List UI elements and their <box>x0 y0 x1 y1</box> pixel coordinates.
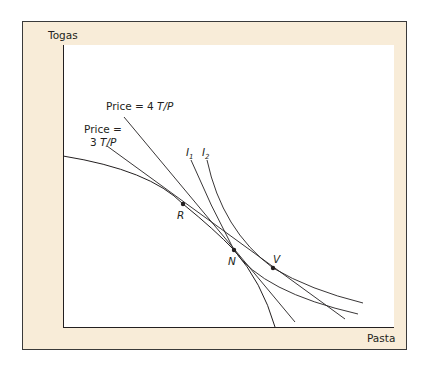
point-v-marker <box>271 266 275 270</box>
x-axis-label: Pasta <box>367 333 395 344</box>
indifference-curve-i1 <box>191 160 358 314</box>
indifference-curve-i2 <box>207 160 363 303</box>
price-3-prefix: 3 <box>90 136 100 148</box>
i1-subscript: 1 <box>189 153 193 161</box>
diagram-canvas <box>0 0 427 370</box>
price-3-unit: T/P <box>100 136 116 148</box>
i2-label: I2 <box>202 147 210 161</box>
production-possibility-frontier <box>63 156 275 327</box>
price-4-unit: T/P <box>157 100 173 112</box>
i1-label: I1 <box>186 147 194 161</box>
point-n-marker <box>232 248 236 252</box>
price-4-prefix: Price = 4 <box>106 100 157 112</box>
price-4-label: Price = 4 T/P <box>106 101 173 112</box>
i2-subscript: 2 <box>205 153 209 161</box>
y-axis-label: Togas <box>48 30 78 41</box>
price-3-label-line2: 3 T/P <box>90 137 116 148</box>
point-r-marker <box>181 202 185 206</box>
price-3-label-line1: Price = <box>84 124 122 135</box>
point-v-label: V <box>273 254 280 265</box>
point-r-label: R <box>177 210 184 221</box>
point-n-label: N <box>228 256 236 267</box>
price-line-3 <box>107 146 345 319</box>
